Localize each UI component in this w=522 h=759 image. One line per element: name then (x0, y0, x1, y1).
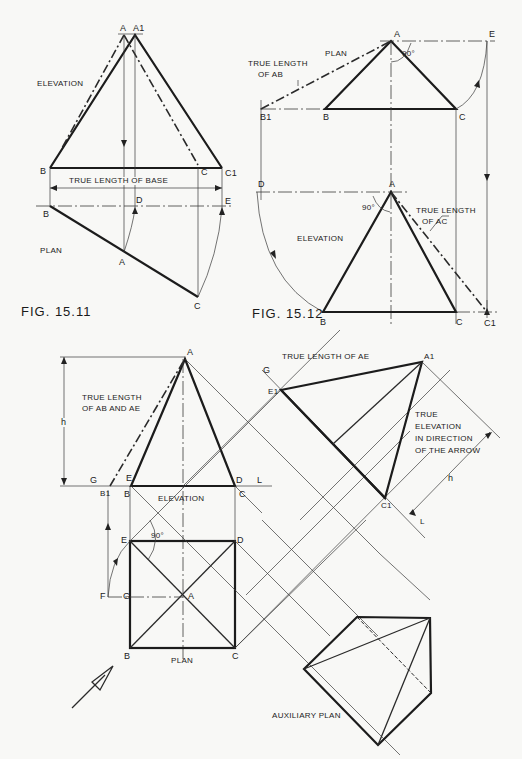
label-elevation: ELEVATION (37, 80, 83, 88)
fig-15-12-drawing (256, 41, 498, 324)
label-h: h (61, 418, 66, 427)
figure-caption-15-12: FIG. 15.12 (252, 307, 323, 320)
label-true-length-ac-2: OF AC (422, 218, 448, 226)
label-e1: E1 (268, 388, 278, 396)
label-a1: A1 (424, 353, 434, 361)
label-d: D (236, 476, 243, 485)
label-true-length-ab-ae-2: OF AB AND AE (82, 405, 140, 413)
label-a: A (394, 30, 400, 39)
label-true-length-ae: TRUE LENGTH OF AE (282, 353, 369, 361)
label-angle-90: 90° (151, 532, 164, 540)
label-c: C (459, 113, 466, 122)
figure-caption-15-11: FIG. 15.11 (21, 305, 91, 318)
label-b-plan: B (124, 652, 130, 661)
label-c1: C1 (381, 502, 392, 510)
label-c: C (239, 490, 246, 499)
label-e-plan: E (121, 536, 127, 545)
label-true-length-ac-1: TRUE LENGTH (416, 207, 476, 215)
label-true-elevation-1: TRUE (415, 411, 438, 419)
label-a1: A1 (133, 24, 145, 33)
label-b: B (124, 490, 130, 499)
label-a-plan: A (119, 258, 125, 267)
label-d-plan: D (237, 536, 244, 545)
label-c-plan: C (232, 652, 239, 661)
label-auxiliary-plan: AUXILIARY PLAN (272, 712, 341, 720)
label-true-length-base: TRUE LENGTH OF BASE (67, 177, 170, 185)
label-c-plan: C (194, 302, 201, 311)
label-b1: B1 (100, 490, 110, 498)
label-b: B (323, 113, 329, 122)
label-true-length-ab-1: TRUE LENGTH (248, 60, 308, 68)
label-true-elevation-2: ELEVATION (415, 423, 461, 431)
label-a-elev: A (389, 180, 395, 189)
label-b-plan: B (43, 210, 49, 219)
label-true-elevation-3: IN DIRECTION (415, 435, 473, 443)
label-c1: C1 (225, 169, 237, 178)
label-b-elev: B (320, 318, 326, 327)
label-true-length-ab-ae-1: TRUE LENGTH (82, 394, 142, 402)
label-g: G (90, 476, 97, 485)
label-l: L (257, 476, 262, 485)
label-g-plan: G (123, 592, 130, 601)
label-c: C (201, 168, 208, 177)
fig-15-11-drawing (36, 34, 232, 297)
label-d: D (258, 180, 265, 189)
label-b1: B1 (260, 113, 272, 122)
label-g-aux: G (263, 366, 270, 375)
label-c-elev: C (456, 318, 463, 327)
label-d: D (136, 196, 143, 205)
label-angle-90: 90° (402, 50, 415, 58)
label-true-elevation-4: OF THE ARROW (415, 447, 480, 455)
label-e: E (225, 197, 231, 206)
label-angle-90-elev: 90° (362, 204, 375, 212)
label-l-aux: L (420, 518, 425, 526)
label-e: E (126, 474, 132, 483)
label-e: E (489, 30, 495, 39)
label-plan: PLAN (325, 50, 347, 58)
label-c1: C1 (484, 319, 496, 328)
label-h-aux: h (448, 474, 453, 483)
label-a-plan: A (188, 592, 194, 601)
label-b: B (40, 167, 46, 176)
label-a: A (120, 24, 126, 33)
label-plan: PLAN (171, 657, 193, 665)
label-plan: PLAN (40, 247, 62, 255)
label-f: F (100, 592, 106, 601)
textbook-page: A A1 ELEVATION B C C1 TRUE LENGTH OF BAS… (0, 0, 522, 759)
label-elevation: ELEVATION (297, 235, 343, 243)
label-elevation: ELEVATION (158, 495, 204, 503)
label-a: A (187, 348, 193, 357)
label-true-length-ab-2: OF AB (258, 71, 283, 79)
